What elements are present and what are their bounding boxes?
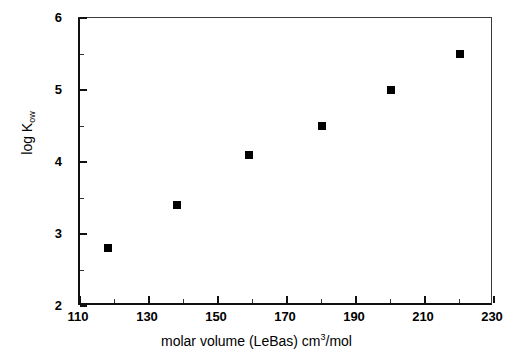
- y-axis-tick-labels: 23456: [0, 0, 70, 362]
- x-axis-major-tick: [217, 296, 219, 303]
- y-axis-tick-label: 6: [55, 11, 62, 24]
- x-axis-tick-label: 190: [343, 310, 365, 323]
- x-axis-major-tick: [355, 296, 357, 303]
- x-axis-major-tick: [79, 296, 81, 303]
- data-point-marker: [173, 201, 181, 209]
- x-axis-minor-tick: [321, 299, 322, 303]
- x-axis-tick-label: 130: [136, 310, 158, 323]
- y-axis-minor-tick: [80, 54, 84, 55]
- chart-figure: log Kow 23456 110130150170190210230 mola…: [0, 0, 513, 362]
- x-axis-title: molar volume (LeBas) cm3/mol: [0, 334, 513, 348]
- x-axis-minor-tick: [459, 299, 460, 303]
- x-axis-major-tick: [286, 296, 288, 303]
- y-axis-tick-label: 5: [55, 83, 62, 96]
- y-axis-major-tick: [80, 233, 87, 235]
- x-axis-major-tick: [148, 296, 150, 303]
- x-axis-tick-label: 150: [205, 310, 227, 323]
- x-axis-tick-label: 230: [481, 310, 503, 323]
- y-axis-tick-label: 4: [55, 155, 62, 168]
- plot-area: [78, 17, 492, 305]
- data-point-marker: [456, 50, 464, 58]
- data-point-marker: [387, 86, 395, 94]
- y-axis-tick-label: 3: [55, 227, 62, 240]
- x-axis-minor-tick: [183, 299, 184, 303]
- x-axis-minor-tick: [390, 299, 391, 303]
- y-axis-minor-tick: [80, 270, 84, 271]
- y-axis-major-tick: [80, 89, 87, 91]
- x-axis-major-tick: [493, 296, 495, 303]
- y-axis-major-tick: [80, 17, 87, 19]
- x-axis-minor-tick: [252, 299, 253, 303]
- x-axis-major-tick: [424, 296, 426, 303]
- x-axis-tick-label: 210: [412, 310, 434, 323]
- x-axis-title-suffix: /mol: [326, 333, 352, 349]
- y-axis-major-tick: [80, 305, 87, 307]
- x-axis-minor-tick: [114, 299, 115, 303]
- data-point-marker: [245, 151, 253, 159]
- y-axis-tick-label: 2: [55, 299, 62, 312]
- y-axis-major-tick: [80, 161, 87, 163]
- data-point-marker: [104, 244, 112, 252]
- x-axis-title-text: molar volume (LeBas) cm: [161, 333, 321, 349]
- x-axis-tick-label: 110: [68, 310, 89, 323]
- x-axis-tick-label: 170: [274, 310, 296, 323]
- y-axis-minor-tick: [80, 198, 84, 199]
- y-axis-minor-tick: [80, 126, 84, 127]
- data-point-marker: [318, 122, 326, 130]
